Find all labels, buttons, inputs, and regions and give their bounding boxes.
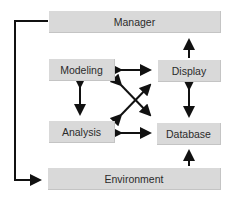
manager-node: Manager (49, 11, 221, 33)
analysis-label: Analysis (62, 126, 101, 138)
analysis-node: Analysis (49, 121, 115, 143)
manager-label: Manager (114, 16, 155, 28)
environment-label: Environment (105, 173, 164, 185)
database-node: Database (157, 123, 221, 145)
display-node: Display (158, 60, 221, 82)
environment-node: Environment (48, 168, 221, 190)
database-label: Database (166, 128, 211, 140)
display-label: Display (172, 65, 206, 77)
modeling-label: Modeling (60, 64, 103, 76)
modeling-node: Modeling (49, 59, 115, 81)
manager-environment-connector (15, 21, 48, 180)
